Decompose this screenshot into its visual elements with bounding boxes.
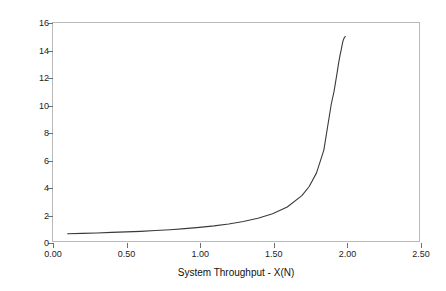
x-tick-mark (127, 243, 128, 248)
x-tick-mark (347, 243, 348, 248)
plot-area: 0246810121416 0.000.501.001.502.002.50 (52, 22, 420, 242)
x-tick-label: 0.50 (118, 250, 136, 259)
y-tick-label: 16 (39, 19, 49, 28)
y-tick-label: 14 (39, 46, 49, 55)
x-tick-mark (200, 243, 201, 248)
x-tick-label: 2.00 (339, 250, 357, 259)
x-tick-mark (53, 243, 54, 248)
y-tick-label: 0 (44, 239, 49, 248)
y-tick-label: 6 (44, 156, 49, 165)
y-tick-label: 2 (44, 211, 49, 220)
x-tick-mark (274, 243, 275, 248)
x-tick-label: 1.50 (265, 250, 283, 259)
x-tick-label: 2.50 (412, 250, 430, 259)
chart-figure: Response Time - R(N) 0246810121416 0.000… (0, 0, 446, 291)
y-tick-label: 12 (39, 74, 49, 83)
y-tick-label: 8 (44, 129, 49, 138)
y-tick-label: 10 (39, 101, 49, 110)
x-axis-title: System Throughput - X(N) (52, 266, 420, 280)
x-tick-label: 1.00 (191, 250, 209, 259)
curve-path (68, 37, 346, 234)
y-tick-label: 4 (44, 184, 49, 193)
x-tick-label: 0.00 (44, 250, 62, 259)
x-tick-mark (421, 243, 422, 248)
response-time-curve (53, 23, 419, 241)
y-axis-title: Response Time - R(N) (6, 0, 20, 50)
